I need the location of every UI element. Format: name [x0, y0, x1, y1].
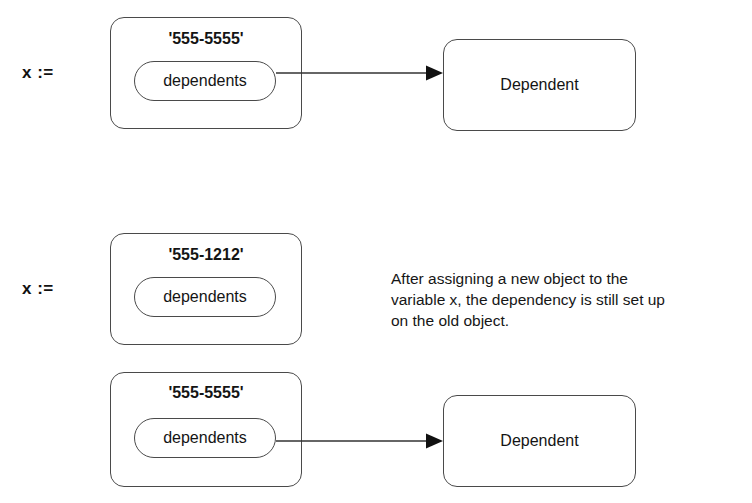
class-label-top: Dependent	[500, 76, 578, 94]
object-identifier-top: '555-5555'	[111, 30, 301, 48]
assignment-label-top: x :=	[22, 63, 54, 83]
instance-variable-capsule-middle: dependents	[134, 277, 276, 317]
arrowhead-icon-top	[426, 66, 443, 81]
arrowhead-icon-bottom	[426, 434, 443, 449]
assignment-label-middle: x :=	[22, 279, 54, 299]
class-label-bottom: Dependent	[500, 432, 578, 450]
object-box-bottom: '555-5555' dependents	[110, 372, 302, 487]
dependency-arrow-top	[276, 62, 448, 84]
instance-variable-label-top: dependents	[163, 73, 247, 89]
instance-variable-capsule-top: dependents	[134, 61, 276, 101]
object-identifier-middle: '555-1212'	[111, 246, 301, 264]
dependency-arrow-bottom	[276, 430, 448, 452]
object-box-middle: '555-1212' dependents	[110, 233, 302, 345]
class-box-top: Dependent	[443, 39, 636, 131]
object-box-top: '555-5555' dependents	[110, 17, 302, 129]
class-box-bottom: Dependent	[443, 395, 636, 487]
instance-variable-capsule-bottom: dependents	[134, 418, 276, 458]
instance-variable-label-middle: dependents	[163, 289, 247, 305]
instance-variable-label-bottom: dependents	[163, 430, 247, 446]
object-identifier-bottom: '555-5555'	[111, 384, 301, 402]
diagram-canvas: x := '555-5555' dependents Dependent x :…	[0, 0, 752, 503]
explanatory-annotation: After assigning a new object to the vari…	[391, 268, 711, 331]
